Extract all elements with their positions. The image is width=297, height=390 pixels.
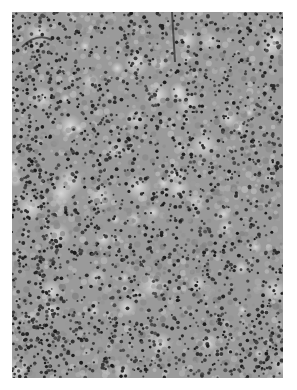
histology-micrograph: [12, 12, 283, 378]
page-background: [0, 0, 297, 390]
tissue-texture: [12, 12, 283, 378]
